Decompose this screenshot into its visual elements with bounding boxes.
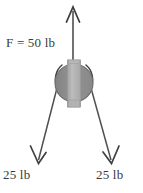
force-diagram-figure: F = 50 lb 25 lb 25 lb: [0, 0, 143, 193]
band-bottom-cap: [69, 100, 80, 107]
upward-force-arrow: [67, 7, 80, 64]
left-cord-arrowhead: [31, 146, 47, 164]
right-cord-shaft: [91, 88, 111, 160]
diagram-canvas: [0, 0, 143, 193]
applied-force-label: F = 50 lb: [6, 36, 55, 50]
band-top-cap: [69, 60, 80, 64]
left-tension-label: 25 lb: [3, 168, 30, 182]
right-cord-arrowhead: [103, 146, 119, 164]
left-cord-shaft: [39, 88, 58, 160]
right-tension-label: 25 lb: [96, 168, 123, 182]
